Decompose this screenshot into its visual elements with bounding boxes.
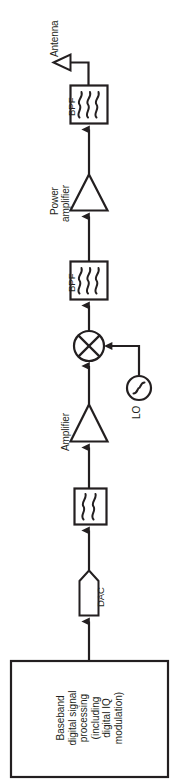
- dac-label: DAC: [95, 587, 106, 607]
- power-amplifier-label-line2: amplifier: [60, 185, 71, 222]
- mixer-icon: [74, 331, 104, 361]
- baseband-line-1: Baseband: [55, 673, 67, 763]
- baseband-processing-label: Baseband digital signal processing (incl…: [55, 673, 125, 763]
- amplifier-label: Amplifier: [60, 413, 71, 451]
- local-oscillator-icon: [127, 376, 151, 400]
- antenna-feed-line: [71, 63, 89, 86]
- baseband-line-6: modulation): [113, 673, 125, 763]
- bpf-mid-label: BPF: [66, 274, 77, 292]
- lo-label: LO: [131, 406, 142, 419]
- bpf-top-label: BPF: [66, 98, 77, 116]
- power-amplifier-label-line1: Power: [49, 187, 60, 215]
- lo-to-mixer-line: [104, 342, 139, 376]
- baseband-line-4: (including: [90, 673, 102, 763]
- lpf-block: [75, 489, 107, 525]
- power-amplifier-icon: [71, 175, 108, 211]
- baseband-line-3: processing: [78, 673, 90, 763]
- antenna-label: Antenna: [49, 20, 60, 57]
- baseband-line-2: digital signal: [67, 673, 79, 763]
- rf-transmitter-block-diagram: Antenna BPF Power amplifier BPF LO Ampli…: [0, 0, 179, 784]
- baseband-line-5: digital IQ: [101, 673, 113, 763]
- diagram-vector-layer: [0, 0, 179, 784]
- amplifier-icon: [71, 405, 108, 442]
